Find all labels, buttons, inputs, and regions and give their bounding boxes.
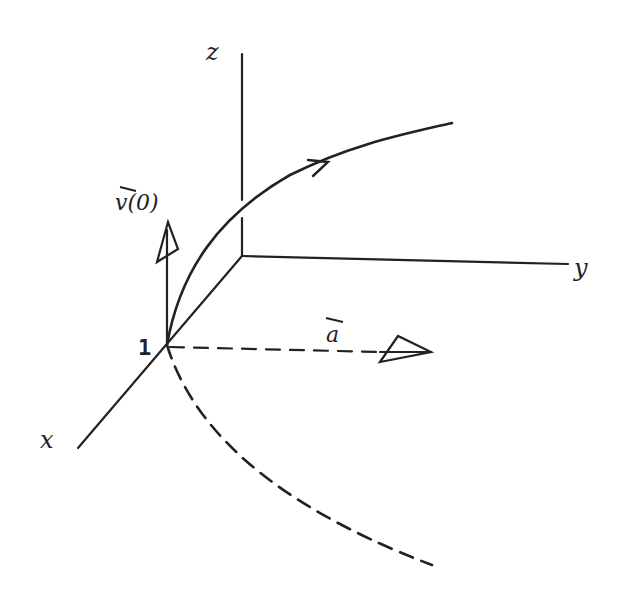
z-axis-label: z xyxy=(205,38,219,66)
y-axis xyxy=(242,256,568,264)
acceleration-arrow-icon xyxy=(380,336,431,362)
x-axis xyxy=(78,256,242,448)
trajectory-diagram: z y x 1 v(0) a xyxy=(0,0,621,601)
acceleration-label: a xyxy=(326,322,339,347)
x-axis-label: x xyxy=(40,426,54,454)
trajectory-solid xyxy=(167,123,452,345)
y-axis-label: y xyxy=(573,254,588,282)
velocity-label: v(0) xyxy=(115,190,159,215)
trajectory-dashed xyxy=(167,345,432,565)
acceleration-dashed-line xyxy=(170,347,380,352)
point-label: 1 xyxy=(138,335,151,360)
